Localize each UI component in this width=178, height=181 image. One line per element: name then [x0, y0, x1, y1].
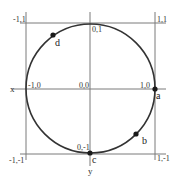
label-bottom-point: 0,-1 [77, 144, 90, 152]
unit-circle-diagram [0, 0, 178, 181]
label-bottom-right: 1,-1 [157, 155, 170, 163]
label-right-point: 1,0 [140, 82, 150, 90]
point-b-marker [133, 131, 138, 136]
label-origin: 0,0 [79, 82, 89, 90]
y-axis-label: y [88, 167, 93, 175]
point-a-label: a [156, 91, 160, 101]
label-top-left: -1,1 [13, 16, 26, 24]
label-top-point: 0,1 [92, 26, 102, 34]
x-axis-label: x [10, 85, 15, 93]
point-c-label: c [92, 155, 96, 165]
label-left-point: -1,0 [28, 82, 41, 90]
point-d-label: d [55, 38, 60, 48]
label-top-right: 1,1 [157, 16, 167, 24]
point-b-label: b [142, 136, 147, 146]
label-bottom-left: -1,-1 [9, 157, 24, 165]
